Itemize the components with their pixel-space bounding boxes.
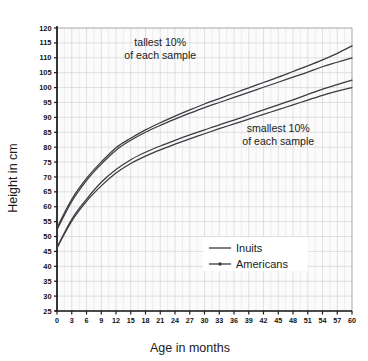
legend-label-americans[interactable]: Americans — [236, 258, 288, 270]
growth-chart: 2530354045505560657075808590951001051101… — [0, 0, 368, 361]
x-tick-label: 42 — [260, 316, 268, 325]
y-tick-label: 35 — [43, 277, 51, 286]
x-tick-label: 18 — [142, 316, 150, 325]
annotation-label: of each sample — [242, 135, 314, 147]
y-tick-label: 100 — [39, 83, 51, 92]
x-tick-label: 45 — [274, 316, 282, 325]
x-axis-title: Age in months — [150, 341, 230, 355]
x-tick-label: 21 — [156, 316, 164, 325]
y-tick-label: 110 — [40, 53, 52, 62]
annotation-label: tallest 10% — [134, 36, 186, 48]
annotation-label: of each sample — [124, 49, 196, 61]
chart-legend[interactable]: InuitsAmericans — [203, 237, 308, 271]
y-tick-label: 65 — [43, 187, 51, 196]
x-tick-label: 9 — [99, 316, 103, 325]
x-tick-label: 51 — [304, 316, 312, 325]
y-tick-label: 45 — [43, 247, 51, 256]
x-tick-label: 0 — [55, 316, 59, 325]
x-tick-label: 27 — [186, 316, 194, 325]
x-tick-label: 30 — [201, 316, 209, 325]
y-tick-label: 55 — [43, 217, 51, 226]
legend-label-inuits[interactable]: Inuits — [236, 242, 263, 254]
annotation-label: smallest 10% — [247, 122, 311, 134]
y-tick-label: 90 — [43, 113, 51, 122]
x-tick-label: 6 — [85, 316, 89, 325]
chart-canvas: 2530354045505560657075808590951001051101… — [0, 0, 368, 361]
y-tick-label: 60 — [43, 202, 51, 211]
x-tick-label: 15 — [127, 316, 135, 325]
y-tick-label: 115 — [40, 38, 52, 47]
x-tick-label: 39 — [245, 316, 253, 325]
x-tick-label: 24 — [171, 316, 179, 325]
y-tick-label: 120 — [39, 24, 51, 33]
y-tick-label: 95 — [43, 98, 51, 107]
x-tick-label: 57 — [333, 316, 341, 325]
x-tick-label: 33 — [215, 316, 223, 325]
x-tick-label: 36 — [230, 316, 238, 325]
y-tick-label: 30 — [43, 292, 51, 301]
legend-marker-dot — [218, 262, 221, 265]
x-tick-label: 3 — [70, 316, 74, 325]
y-tick-label: 80 — [43, 143, 51, 152]
x-tick-label: 48 — [289, 316, 297, 325]
y-axis-title: Height in cm — [6, 143, 20, 212]
x-tick-label: 54 — [319, 316, 327, 325]
y-tick-label: 85 — [43, 128, 51, 137]
y-tick-label: 40 — [43, 262, 51, 271]
y-tick-label: 75 — [43, 158, 51, 167]
y-tick-label: 70 — [43, 173, 51, 182]
x-tick-labels: 03691215182124273033363942454851545760 — [55, 316, 356, 325]
y-tick-label: 105 — [39, 68, 51, 77]
y-tick-label: 25 — [43, 307, 51, 316]
x-tick-label: 60 — [348, 316, 356, 325]
x-tick-label: 12 — [112, 316, 120, 325]
y-tick-label: 50 — [43, 232, 51, 241]
